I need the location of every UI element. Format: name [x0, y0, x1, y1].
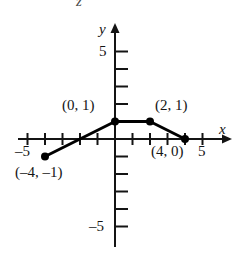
- y-tick-label-minus-5: –5: [89, 219, 104, 234]
- coordinate-plane: [0, 0, 236, 255]
- y-axis-label: y: [99, 22, 106, 37]
- graph-figure: z: [0, 0, 236, 255]
- point-label-2-1: (2, 1): [155, 98, 188, 113]
- point-label-minus4-minus1: (–4, –1): [15, 165, 63, 180]
- data-point-marker: [181, 135, 189, 143]
- y-tick-label-5: 5: [99, 44, 107, 59]
- data-point-marker: [41, 153, 49, 161]
- x-axis-label: x: [219, 122, 226, 137]
- x-tick-label-5: 5: [198, 144, 206, 159]
- x-tick-label-minus-5: –5: [15, 144, 30, 159]
- data-point-marker: [111, 118, 119, 126]
- data-point-marker: [146, 118, 154, 126]
- point-label-4-0: (4, 0): [151, 144, 184, 159]
- y-axis-arrowhead: [111, 23, 120, 33]
- point-label-0-1: (0, 1): [62, 98, 95, 113]
